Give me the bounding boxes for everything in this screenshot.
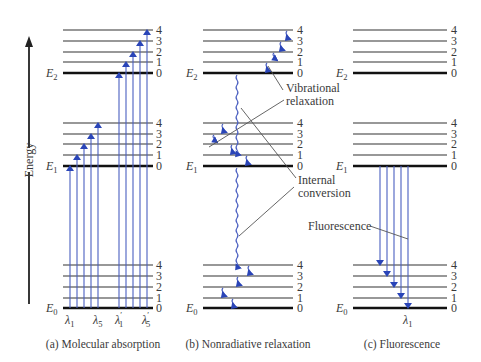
panel-nonradiative-relaxation: 4 3 2 1 0 4 3 2 1 0 4 3 2 1 0 E2 E1 E0 V… [185,23,351,351]
svg-text:E2: E2 [185,66,198,82]
svg-text:0: 0 [451,159,457,173]
state-labels-a: E2 E1 E0 [45,66,58,317]
svg-text:E0: E0 [45,301,58,317]
svg-text:E1: E1 [185,159,198,175]
svg-text:λ1: λ1 [64,313,74,329]
fluorescence-connector [370,226,408,239]
svg-text:0: 0 [297,66,303,80]
level-numbers-a: 4 3 2 1 0 4 3 2 1 0 4 3 2 1 0 [156,23,162,315]
svg-text:0: 0 [156,66,162,80]
svg-text:E2: E2 [45,66,58,82]
svg-text:E0: E0 [185,301,198,317]
caption-b: (b) Nonradiative relaxation [185,338,310,351]
svg-text:0: 0 [297,301,303,315]
fluorescence-label: Fluorescence [308,219,371,233]
e1-levels-b [203,123,293,166]
svg-text:conversion: conversion [298,186,351,200]
e1-levels-c [353,123,447,166]
energy-level-diagram: Energy [0,0,481,362]
svg-text:λ′5: λ′5 [141,310,150,329]
svg-text:0: 0 [451,301,457,315]
svg-text:0: 0 [297,159,303,173]
svg-text:E0: E0 [335,301,348,317]
internal-conversion-label: Internal [298,173,336,187]
energy-axis-label: Energy [22,143,36,177]
fluorescence-arrows [380,166,408,306]
e2-levels-c [353,30,447,73]
energy-axis: Energy [22,36,36,304]
vibrational-relaxation-label: Vibrational [286,81,341,95]
svg-text:0: 0 [156,301,162,315]
level-numbers-b: 4 3 2 1 0 4 3 2 1 0 4 3 2 1 0 [297,23,303,315]
axis-arrow-icon [25,36,33,47]
svg-text:E1: E1 [45,159,58,175]
svg-text:λ′1: λ′1 [114,310,123,329]
wavelength-labels-a: λ1 λ5 λ′1 λ′5 [64,310,150,329]
internal-conversion-wavy [236,75,238,268]
caption-c: (c) Fluorescence [364,338,440,351]
absorption-arrows-e1 [70,125,98,308]
svg-text:0: 0 [451,66,457,80]
annotation-connectors [209,66,296,236]
svg-text:λ5: λ5 [92,313,102,329]
e0-levels-c [353,265,447,308]
level-numbers-c: 4 3 2 1 0 4 3 2 1 0 4 3 2 1 0 [451,23,457,315]
wavelength-label-c: λ1 [402,313,412,329]
svg-text:E2: E2 [335,66,348,82]
e0-levels-b [203,265,293,308]
state-labels-b: E2 E1 E0 [185,66,198,317]
svg-text:relaxation: relaxation [286,94,334,108]
panel-molecular-absorption: 4 3 2 1 0 4 3 2 1 0 4 3 2 1 0 E2 E1 E0 λ… [45,23,162,351]
svg-text:0: 0 [156,159,162,173]
caption-a: (a) Molecular absorption [46,338,161,351]
e2-levels-b [203,30,293,73]
svg-text:E1: E1 [335,159,348,175]
